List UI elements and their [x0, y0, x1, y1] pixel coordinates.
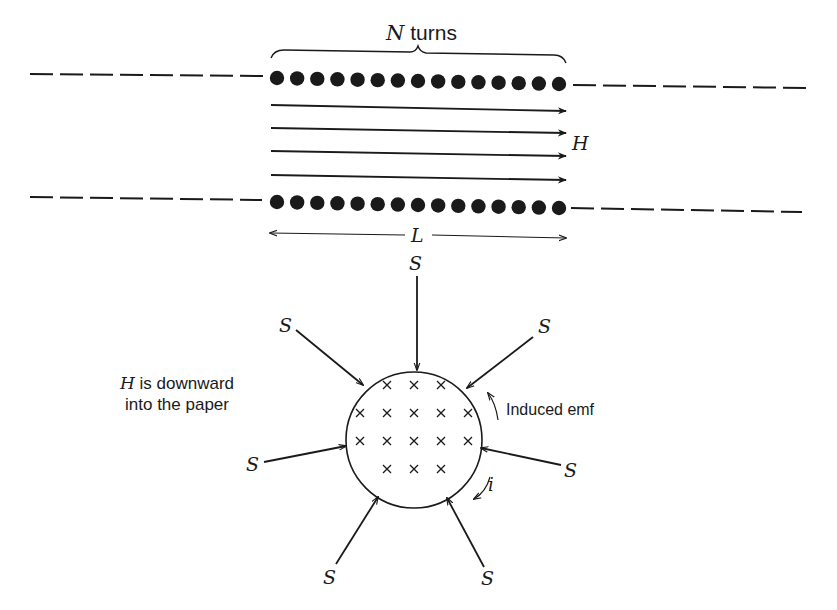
cross-mark [410, 437, 418, 445]
cross-mark [410, 409, 418, 417]
surface-label-top: S [409, 252, 422, 274]
winding-dot [371, 73, 385, 87]
cross-mark [356, 409, 364, 417]
solenoid-diagram: N turns H L S S S S S S S H is downward … [0, 0, 837, 610]
winding-dot [270, 71, 284, 85]
winding-dot [290, 71, 304, 85]
top-winding-row [270, 71, 566, 91]
cross-mark [383, 437, 391, 445]
cross-mark [437, 465, 445, 473]
winding-dot [270, 195, 284, 209]
surface-label-lower-right: S [481, 567, 494, 589]
winding-dot [350, 197, 364, 211]
turns-brace [271, 46, 566, 63]
winding-dot [350, 73, 364, 87]
winding-dot [471, 199, 485, 213]
bottom-winding-row [270, 195, 566, 215]
winding-dot [310, 72, 324, 86]
winding-dot [330, 196, 344, 210]
winding-dot [552, 201, 566, 215]
winding-dot [411, 74, 425, 88]
turns-label: N turns [385, 21, 457, 45]
winding-dot [451, 75, 465, 89]
cross-mark [437, 409, 445, 417]
winding-dot [552, 77, 566, 91]
cross-mark [410, 381, 418, 389]
cross-mark [383, 381, 391, 389]
cross-mark [464, 437, 472, 445]
induced-emf-label: Induced emf [506, 401, 595, 418]
surface-label-left: S [246, 453, 259, 475]
cross-mark [383, 409, 391, 417]
winding-dot [532, 200, 546, 214]
surface-label-upper-right: S [538, 315, 551, 337]
length-label-l: L [410, 224, 424, 246]
winding-dot [431, 198, 445, 212]
surface-label-lower-left: S [323, 566, 336, 588]
winding-dot [451, 199, 465, 213]
winding-dot [491, 200, 505, 214]
winding-dot [290, 195, 304, 209]
conducting-loop [346, 372, 482, 508]
surface-arrows [264, 276, 561, 567]
dashed-extension-lines [30, 74, 807, 212]
winding-dot [512, 76, 526, 90]
winding-dot [431, 74, 445, 88]
winding-dot [512, 200, 526, 214]
cross-mark [437, 381, 445, 389]
winding-dot [411, 198, 425, 212]
cross-mark [464, 409, 472, 417]
cross-mark [410, 465, 418, 473]
winding-dot [391, 73, 405, 87]
field-label-h: H [571, 132, 589, 154]
field-direction-note: H is downward [119, 373, 234, 393]
cross-mark [356, 437, 364, 445]
field-direction-note-line2: into the paper [125, 395, 229, 414]
cross-mark [383, 465, 391, 473]
cross-mark [437, 437, 445, 445]
winding-dot [491, 76, 505, 90]
field-arrows [271, 105, 566, 180]
surface-label-upper-left: S [279, 314, 292, 336]
winding-dot [310, 196, 324, 210]
field-into-page-crosses [356, 381, 472, 473]
current-label-i: i [488, 474, 494, 495]
winding-dot [330, 72, 344, 86]
winding-dot [471, 75, 485, 89]
surface-label-right: S [564, 459, 577, 481]
winding-dot [391, 197, 405, 211]
winding-dot [532, 76, 546, 90]
winding-dot [371, 197, 385, 211]
induced-emf-arrow [488, 393, 498, 420]
